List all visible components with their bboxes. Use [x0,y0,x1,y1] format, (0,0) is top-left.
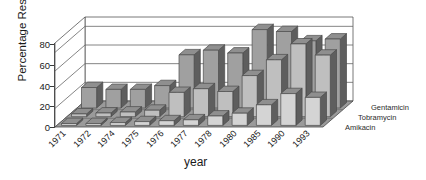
legend-item-amikacin: Amikacin [345,123,375,132]
plot-area [0,0,426,180]
chart-figure: Percentage Resistance year 80 60 40 20 0… [0,0,426,180]
legend-item-gentamicin: Gentamicin [371,103,409,112]
legend-item-tobramycin: Tobramycin [358,113,396,122]
chart-canvas [0,0,426,180]
